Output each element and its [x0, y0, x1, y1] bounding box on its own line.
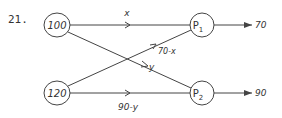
- node-120-label: 120: [47, 88, 66, 99]
- output-label-70: 70: [255, 20, 267, 30]
- edge-label-y: y: [148, 62, 155, 72]
- edge-label-70-x: 70-x: [158, 47, 176, 56]
- transport-network-diagram: 21. 100 120 P1 P2 x y 70-x 90-y 70 90: [0, 0, 282, 118]
- edge-label-x: x: [123, 8, 130, 18]
- node-100-label: 100: [47, 20, 66, 31]
- edge-100-to-p2: [68, 32, 191, 88]
- edge-label-90-y: 90-y: [118, 102, 139, 112]
- edge-120-to-p1: [68, 30, 191, 86]
- problem-number: 21.: [8, 13, 28, 26]
- output-label-90: 90: [255, 88, 267, 98]
